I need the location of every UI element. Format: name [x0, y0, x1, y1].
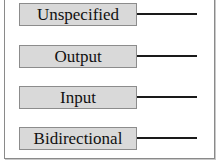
port-row-output: Output	[19, 45, 201, 68]
port-label-unspecified: Unspecified	[19, 3, 137, 26]
port-connector-line	[137, 55, 197, 57]
port-row-unspecified: Unspecified	[19, 3, 201, 26]
port-connector-line	[137, 96, 197, 98]
port-connector-line	[137, 13, 197, 15]
port-label-output: Output	[19, 45, 137, 68]
port-row-input: Input	[19, 86, 201, 109]
port-connector-line	[137, 137, 197, 139]
port-label-bidirectional: Bidirectional	[19, 127, 137, 150]
port-row-bidirectional: Bidirectional	[19, 127, 201, 150]
port-label-input: Input	[19, 86, 137, 109]
